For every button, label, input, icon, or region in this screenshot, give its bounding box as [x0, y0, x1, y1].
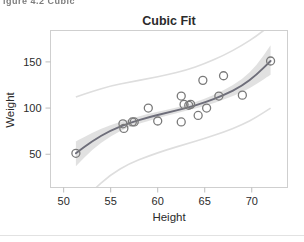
y-axis-label: Weight — [4, 91, 16, 127]
chart-title: Cubic Fit — [142, 14, 196, 28]
x-tick-label: 65 — [199, 195, 211, 207]
y-tick-label: 150 — [23, 56, 41, 68]
chart-figure: Cubic Fit 5055606570 50100150 Height Wei… — [0, 0, 304, 242]
y-tick-label: 100 — [23, 102, 41, 114]
x-tick-label: 50 — [58, 195, 70, 207]
x-tick-label: 55 — [105, 195, 117, 207]
y-tick-label: 50 — [29, 148, 41, 160]
x-tick-label: 70 — [246, 195, 258, 207]
x-tick-label: 60 — [152, 195, 164, 207]
x-axis-label: Height — [152, 211, 186, 223]
